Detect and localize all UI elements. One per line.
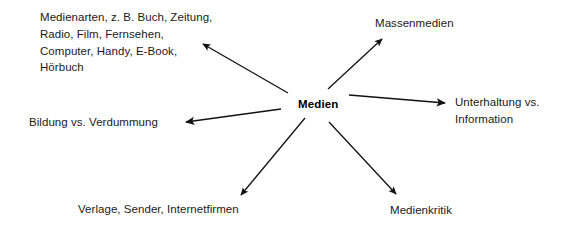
node-label-verlage-sender-internetfirmen: Verlage, Sender, Internetfirmen xyxy=(78,201,239,218)
node-label-unterhaltung-information: Unterhaltung vs. Information xyxy=(455,94,565,128)
arrow-massenmedien xyxy=(328,39,382,89)
arrow-medienkritik xyxy=(329,122,396,194)
arrow-bildung-verdummung xyxy=(186,109,281,122)
node-label-medienkritik: Medienkritik xyxy=(390,202,452,219)
center-node-medien: Medien xyxy=(298,97,339,111)
node-label-medienarten: Medienarten, z. B. Buch, Zeitung, Radio,… xyxy=(40,9,240,76)
mindmap-canvas: Medienarten, z. B. Buch, Zeitung, Radio,… xyxy=(0,0,566,226)
node-label-bildung-verdummung: Bildung vs. Verdummung xyxy=(29,114,158,131)
node-label-massenmedien: Massenmedien xyxy=(375,15,454,32)
arrow-unterhaltung-information xyxy=(349,95,445,103)
arrow-verlage-sender-internetfirmen xyxy=(241,118,305,195)
